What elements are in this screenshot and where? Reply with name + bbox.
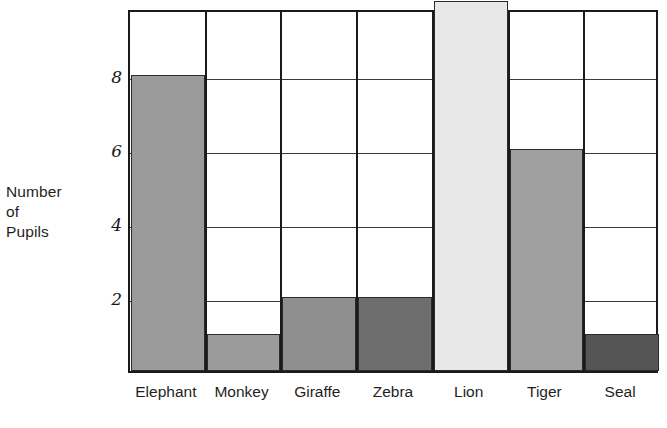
- x-label-elephant: Elephant: [128, 382, 204, 402]
- bar-giraffe[interactable]: [282, 297, 356, 371]
- x-label-seal: Seal: [582, 382, 658, 402]
- y-tick-label-2: 2: [96, 289, 122, 309]
- y-tick-label-6: 6: [96, 141, 122, 161]
- bar-lion[interactable]: [434, 1, 508, 371]
- gridline-y-8: [130, 79, 656, 80]
- x-axis-category-labels: ElephantMonkeyGiraffeZebraLionTigerSeal: [128, 382, 658, 410]
- bar-chart: Number of Pupils 2468 ElephantMonkeyGira…: [0, 0, 667, 428]
- x-label-monkey: Monkey: [204, 382, 280, 402]
- bar-tiger[interactable]: [510, 149, 584, 371]
- bar-elephant[interactable]: [131, 75, 205, 371]
- x-label-tiger: Tiger: [507, 382, 583, 402]
- column-separator-6: [583, 12, 585, 371]
- bar-monkey[interactable]: [207, 334, 281, 371]
- bar-zebra[interactable]: [358, 297, 432, 371]
- column-separator-1: [205, 12, 207, 371]
- bar-seal[interactable]: [585, 334, 659, 371]
- plot-area: [128, 10, 658, 373]
- plot-inner: [130, 12, 656, 371]
- x-label-zebra: Zebra: [355, 382, 431, 402]
- y-tick-label-8: 8: [96, 67, 122, 87]
- x-label-lion: Lion: [431, 382, 507, 402]
- x-label-giraffe: Giraffe: [279, 382, 355, 402]
- y-axis-tick-labels: 2468: [88, 0, 122, 428]
- y-tick-label-4: 4: [96, 215, 122, 235]
